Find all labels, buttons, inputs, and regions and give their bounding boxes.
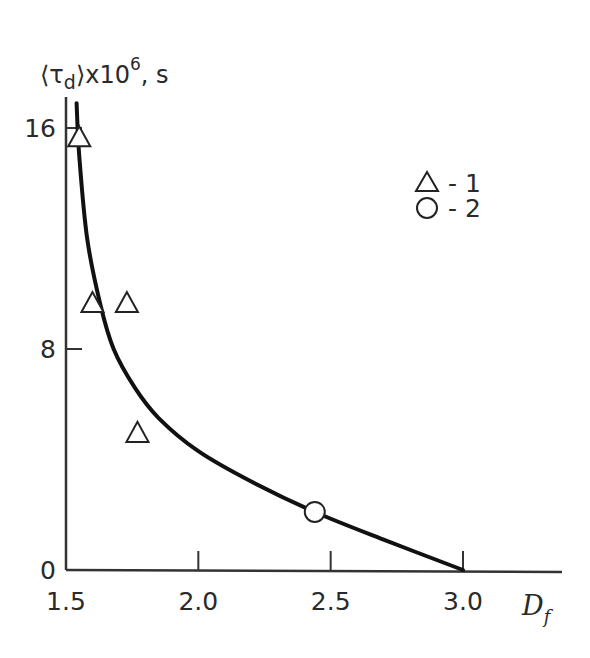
x-axis-line: [66, 570, 562, 572]
legend-label-2: - 2: [448, 194, 481, 223]
legend: - 1 - 2: [416, 169, 481, 223]
legend-circle-marker: [417, 198, 437, 218]
fit-curve: [77, 103, 463, 570]
y-axis-title-after: ⟩x10: [76, 61, 130, 89]
legend-triangle-marker: [416, 172, 438, 191]
y-tick-label: 8: [40, 335, 56, 364]
y-axis-title-unit: , s: [141, 61, 169, 89]
y-axis-title-sup: 6: [130, 54, 141, 74]
y-ticks: 0816: [24, 114, 82, 585]
y-tick-label: 16: [24, 114, 56, 143]
legend-item-2: - 2: [417, 194, 481, 223]
data-point-series-1: [116, 292, 138, 312]
y-axis-title-main: ⟨τ: [40, 61, 64, 89]
y-axis-title: ⟨τd⟩x106, s: [40, 54, 169, 93]
x-tick-label: 1.5: [46, 587, 86, 616]
x-axis-title-main: D: [521, 590, 544, 621]
x-tick-label: 2.0: [178, 587, 218, 616]
x-ticks: 1.52.02.53.0: [46, 551, 483, 616]
chart: 1.52.02.53.0 0816 ⟨τd⟩x106, s Df - 1 - 2: [0, 0, 590, 658]
y-tick-label: 0: [40, 556, 56, 585]
data-point-series-2: [305, 502, 325, 522]
x-tick-label: 3.0: [443, 587, 483, 616]
axes: [66, 97, 562, 572]
x-axis-title: Df: [521, 590, 554, 627]
x-axis-title-sub: f: [542, 606, 554, 627]
data-point-series-1: [68, 126, 90, 146]
data-point-series-1: [126, 422, 148, 442]
y-axis-title-sub: d: [64, 71, 76, 93]
x-tick-label: 2.5: [311, 587, 351, 616]
